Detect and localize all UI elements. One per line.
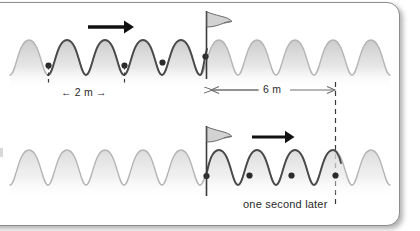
wavelength-label: ← 2 m →	[61, 86, 107, 98]
bottom-wave-dot	[288, 172, 294, 178]
wave-figure: ← 2 m → 6 m one second later	[0, 0, 420, 231]
wave-figure-svg	[0, 0, 420, 231]
bottom-direction-arrow	[252, 131, 295, 143]
bottom-wave-row	[10, 150, 390, 198]
top-direction-arrow	[88, 21, 134, 34]
bottom-wave-dot	[332, 172, 338, 178]
bottom-flag-pennant	[207, 127, 232, 142]
bottom-wave-dot	[246, 172, 252, 178]
wave-diagram-root: ← 2 m → 6 m one second later	[0, 0, 420, 231]
top-wave-dot	[202, 53, 208, 59]
top-wave-dot	[159, 59, 165, 65]
top-wave-row	[10, 40, 390, 88]
time-label: one second later	[243, 198, 328, 210]
top-wave-fill	[10, 40, 390, 88]
distance-label: 6 m	[263, 83, 281, 95]
top-flag-pennant	[207, 12, 232, 27]
